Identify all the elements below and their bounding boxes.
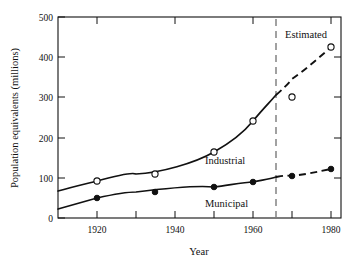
municipal-point-1935 bbox=[152, 189, 158, 195]
industrial-point-1970 bbox=[289, 94, 295, 100]
y-tick-label-300: 300 bbox=[39, 93, 54, 103]
industrial-point-1935 bbox=[152, 171, 158, 177]
x-tick-label-1940: 1940 bbox=[166, 225, 185, 235]
municipal-point-1920 bbox=[94, 195, 100, 201]
industrial-series-label: Industrial bbox=[205, 155, 245, 166]
industrial-observed-curve bbox=[58, 95, 276, 191]
industrial-point-1920 bbox=[94, 178, 100, 184]
y-tick-label-100: 100 bbox=[39, 174, 54, 184]
municipal-point-1970 bbox=[289, 173, 295, 179]
y-axis-ticks bbox=[58, 17, 65, 218]
y-tick-label-0: 0 bbox=[48, 214, 53, 224]
x-tick-label-1960: 1960 bbox=[244, 225, 263, 235]
industrial-point-1980 bbox=[328, 44, 334, 50]
municipal-point-1980 bbox=[328, 166, 334, 172]
municipal-data-markers bbox=[94, 166, 334, 201]
municipal-point-1950 bbox=[211, 184, 217, 190]
plot-frame bbox=[58, 17, 341, 218]
municipal-series-label: Municipal bbox=[205, 198, 248, 209]
x-axis-ticks bbox=[97, 211, 331, 218]
x-axis-ticks-top bbox=[97, 17, 331, 24]
y-tick-label-200: 200 bbox=[39, 134, 54, 144]
y-axis-ticks-right bbox=[334, 57, 341, 178]
x-axis-title: Year bbox=[189, 246, 209, 257]
estimated-region-label: Estimated bbox=[285, 29, 328, 40]
population-equivalents-chart: 500 400 300 200 100 0 1920 1940 1960 198… bbox=[0, 0, 358, 269]
y-axis-title: Population equivalents (millions) bbox=[9, 48, 21, 188]
y-tick-label-400: 400 bbox=[39, 53, 54, 63]
municipal-estimated-curve bbox=[276, 169, 331, 177]
industrial-point-1960 bbox=[250, 118, 256, 124]
industrial-estimated-curve bbox=[276, 47, 331, 95]
x-tick-label-1920: 1920 bbox=[88, 225, 107, 235]
chart-figure: 500 400 300 200 100 0 1920 1940 1960 198… bbox=[0, 0, 358, 269]
x-tick-label-1980: 1980 bbox=[322, 225, 341, 235]
y-tick-label-500: 500 bbox=[39, 13, 54, 23]
municipal-point-1960 bbox=[250, 179, 256, 185]
